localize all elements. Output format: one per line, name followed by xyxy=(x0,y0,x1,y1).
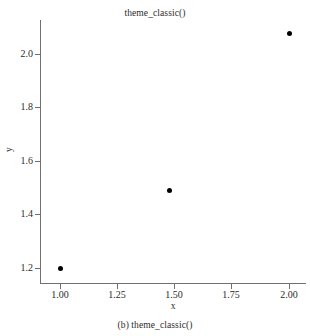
figure-container: theme_classic() 1.2 1.4 1.6 1.8 2.0 1.00… xyxy=(0,0,310,336)
data-point xyxy=(167,188,172,193)
y-axis-tick xyxy=(35,54,40,55)
y-axis-tick-label: 1.4 xyxy=(0,209,33,219)
y-axis-tick-label: 1.6 xyxy=(0,156,33,166)
data-point xyxy=(287,31,292,36)
x-axis-tick-label: 1.25 xyxy=(87,290,147,300)
y-axis-tick xyxy=(35,161,40,162)
data-point xyxy=(58,266,63,271)
x-axis-tick-label: 1.75 xyxy=(201,290,261,300)
y-axis-line xyxy=(40,20,41,284)
x-axis-title: x xyxy=(40,301,306,312)
figure-caption: (b) theme_classic() xyxy=(0,319,310,331)
x-axis-line xyxy=(40,283,306,284)
plot-panel xyxy=(40,20,305,283)
y-axis-tick xyxy=(35,268,40,269)
x-axis-tick-label: 2.00 xyxy=(259,290,310,300)
y-axis-tick-label: 2.0 xyxy=(0,49,33,59)
x-axis-tick-label: 1.50 xyxy=(144,290,204,300)
chart-title: theme_classic() xyxy=(0,7,310,19)
y-axis-tick xyxy=(35,214,40,215)
x-axis-tick-label: 1.00 xyxy=(30,290,90,300)
y-axis-title: y xyxy=(4,143,15,157)
y-axis-tick-label: 1.8 xyxy=(0,102,33,112)
y-axis-tick-label: 1.2 xyxy=(0,263,33,273)
y-axis-tick xyxy=(35,107,40,108)
